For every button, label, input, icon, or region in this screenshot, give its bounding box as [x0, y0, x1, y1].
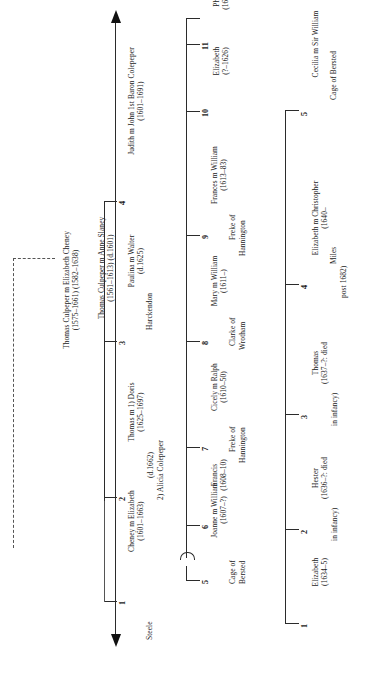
grandchildren-rail-cap [186, 18, 200, 19]
ggc-4-number: 4 [300, 285, 310, 289]
gc-11-dates: (1614–38) [222, 0, 231, 49]
child-2-number: 2 [118, 497, 128, 501]
ggc-4: Elizabeth m Christopher (1640– [312, 148, 330, 288]
ggc-2-number: 2 [300, 530, 310, 534]
child-2-name-line2: 2) Alicia Colepeper [157, 440, 166, 500]
ggc-5-number: 5 [300, 112, 310, 116]
connector-gc-5 [186, 580, 200, 581]
connector-child-3 [104, 341, 117, 342]
gc-8-name-line2: Clarke of [229, 317, 238, 346]
gc-9: Frances m William (1613–83) [211, 110, 229, 240]
ggc-3: Thomas (1637–?: died [312, 308, 330, 418]
child-3-number: 3 [118, 341, 128, 345]
connector-ggc-1 [285, 623, 299, 624]
child-4: Judith m John 1st Baron Colepeper (1601–… [128, 0, 146, 206]
ancestor-gen1: Thomas Culpeper m Elizabeth Cheney (1575… [63, 60, 81, 520]
connector-gc-10 [186, 111, 200, 112]
ancestor-gen0-dates: (1561–1613) (d.1601) [107, 58, 116, 478]
ggc-4-name-line2: Miles [330, 247, 339, 264]
connector-gc-7 [186, 447, 200, 448]
ancestor-gen1-dates: (1575–1661) (1582–1638) [72, 60, 81, 520]
gc-5-number: 5 [201, 580, 211, 584]
family-tree-diagram: Thomas Culpeper m Anne Slaney (1561–1613… [0, 0, 373, 679]
gc-5-name-line3: Bersted [239, 561, 248, 584]
gc-8-name-line3: Wrotham [239, 322, 248, 350]
gc-7-name-line3: Hannington [239, 427, 248, 463]
child-2-dates: (1625–1697) [137, 322, 146, 502]
gen0-descent-stub [13, 258, 55, 259]
gen0-descent-line [13, 258, 14, 548]
ggc-2-dates-line2: in infancy) [331, 508, 340, 541]
ggc-1-number: 1 [300, 624, 310, 628]
gc-7-number: 7 [201, 447, 211, 451]
child-2-dates-line2: (d.1662) [147, 452, 156, 478]
connector-gc-9 [186, 235, 200, 236]
gc-8-number: 8 [201, 341, 211, 345]
child-4-number: 4 [118, 201, 128, 205]
connector-child-4 [104, 201, 117, 202]
gc-9-name-line3: Hannington [239, 220, 248, 256]
ggc-3-dates: (1637–?: died [321, 308, 330, 418]
gc-9-number: 9 [201, 235, 211, 239]
gc-11-number: 11 [201, 42, 211, 50]
connector-gc-6 [186, 525, 200, 526]
siblings-rail-2-4 [104, 201, 105, 501]
connector-ggc-5 [285, 110, 299, 111]
grandchildren-rail [186, 18, 187, 580]
connector-gc-8 [186, 341, 200, 342]
gc-9-name-line2: Freke of [229, 214, 238, 240]
gc-5-name-line2: Cage of [229, 560, 238, 584]
gc-7-name-line2: Freke of [229, 426, 238, 452]
connector-ggc-4 [285, 284, 299, 285]
child-2: Thomas m 1) Doris (1625–1697) [128, 322, 146, 502]
child-1-parent-bracket [104, 497, 105, 602]
ancestor-gen0: Thomas Culpeper m Anne Slaney (1561–1613… [98, 58, 116, 478]
spine-arrow-top [111, 10, 121, 23]
spine-crossing-jump [180, 552, 195, 560]
ggc-2-dates: (1636–?: died [321, 423, 330, 533]
child-1-name-line2: Steele [146, 621, 155, 640]
connector-gc-11 [186, 44, 200, 45]
ggc-4-dates-line2: post 1682) [340, 266, 349, 298]
connector-child-1 [104, 601, 117, 602]
ggc-2: Hester (1636–?: died [312, 423, 330, 533]
child-4-dates: (1601–1691) [137, 0, 146, 206]
connector-ggc-2 [285, 529, 299, 530]
gc-10-number: 10 [201, 109, 211, 117]
ggc-3-number: 3 [300, 415, 310, 419]
great-grandchildren-rail [285, 110, 286, 623]
child-1-number: 1 [118, 601, 128, 605]
connector-ggc-3 [285, 414, 299, 415]
ggc-5-name-line2: Cage of Bersted [330, 51, 339, 100]
ggc-3-dates-line2: in infancy) [331, 393, 340, 426]
gc-6-number: 6 [201, 525, 211, 529]
child-3-name-line2: Harckendon [146, 293, 155, 330]
ggc-1: Elizabeth (1634–5) [312, 517, 330, 627]
ggc-4-dates: (1640– [321, 148, 330, 288]
ggc-5-name: Cecilia m Sir William [312, 0, 321, 114]
spine-arrow-bottom [111, 634, 121, 647]
gc-11: Philippa (1614–38) [213, 0, 231, 49]
ggc-1-dates: (1634–5) [321, 517, 330, 627]
ggc-5: Cecilia m Sir William [312, 0, 321, 114]
connector-child-2 [104, 497, 117, 498]
